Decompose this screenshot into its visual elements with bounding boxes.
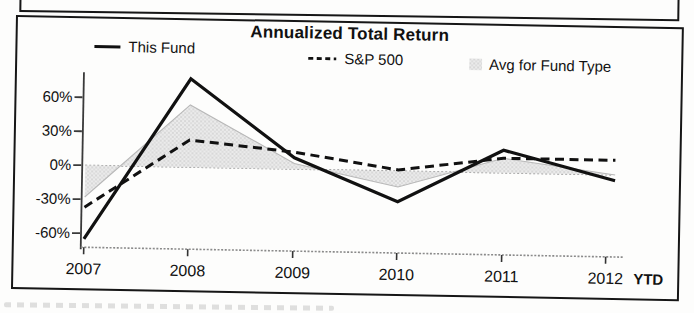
y-axis-label: -30% — [24, 188, 70, 209]
x-axis-label: 2007 — [58, 259, 108, 279]
x-axis-label: 2012 — [580, 268, 630, 288]
y-axis-label: -60% — [24, 222, 70, 243]
scan-bleed-artifact — [4, 302, 334, 310]
x-axis-line — [81, 247, 624, 257]
x-axis-label: 2009 — [267, 263, 317, 283]
chart-area: Annualized Total Return This Fund S&P 50… — [13, 17, 682, 299]
x-axis-label: 2008 — [162, 261, 212, 281]
scanned-fund-report-page: { "title": "Annualized Total Return", "l… — [0, 0, 694, 313]
x-axis-label: 2010 — [371, 265, 421, 285]
y-axis-label: 60% — [26, 86, 72, 107]
y-axis-label: 30% — [26, 120, 72, 141]
y-axis-label: 0% — [25, 154, 71, 175]
annualized-total-return-chart-card: Annualized Total Return This Fund S&P 50… — [11, 15, 684, 301]
x-axis-label: 2011 — [476, 266, 526, 286]
y-axis-line — [81, 72, 84, 249]
plot-canvas — [13, 17, 682, 295]
ytd-label: YTD — [633, 270, 663, 288]
